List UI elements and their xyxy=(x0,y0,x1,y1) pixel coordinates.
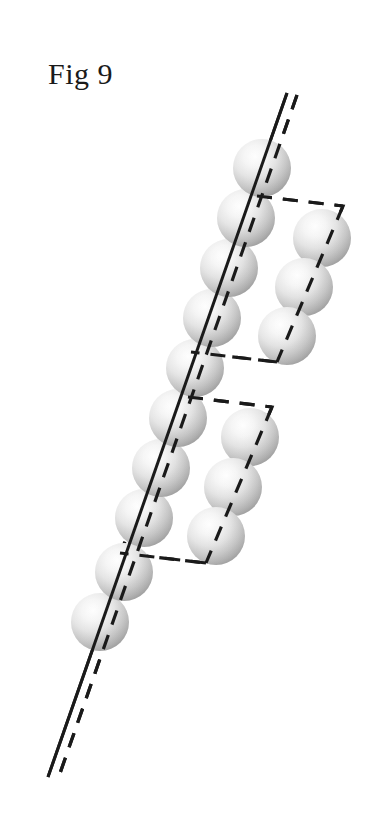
sphere-chain-8 xyxy=(115,489,173,547)
sphere-chain-5 xyxy=(166,339,224,397)
figure-illustration xyxy=(0,0,375,819)
sphere-chain-4 xyxy=(183,289,241,347)
figure-root: Fig 9 xyxy=(0,0,375,819)
upper-branch-spheres xyxy=(258,209,351,365)
sphere-chain-10 xyxy=(71,593,129,651)
sphere-chain-3 xyxy=(200,239,258,297)
